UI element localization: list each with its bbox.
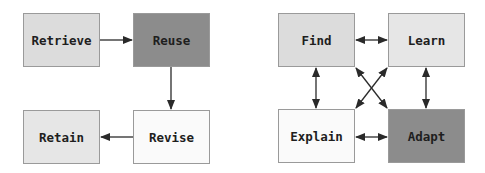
node-revise: Revise — [133, 110, 210, 164]
node-reuse: Reuse — [133, 13, 210, 67]
node-retain: Retain — [23, 110, 100, 164]
node-retrieve: Retrieve — [23, 13, 100, 67]
node-find: Find — [278, 13, 355, 67]
node-explain: Explain — [278, 109, 355, 163]
node-learn: Learn — [388, 13, 465, 67]
node-adapt: Adapt — [388, 109, 465, 163]
